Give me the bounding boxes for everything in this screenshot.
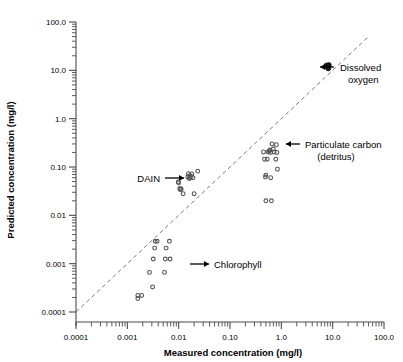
series-chlorophyll [136, 239, 172, 300]
annotation-label-particulate-carbon: Particulate carbon [305, 139, 382, 150]
arrow-head [204, 261, 209, 267]
data-point [270, 142, 274, 146]
data-point [148, 270, 152, 274]
annotation-label-dissolved-oxygen: Dissolved [340, 62, 381, 73]
data-point [196, 169, 200, 173]
x-tick-label: 10.0 [325, 333, 341, 342]
data-point [274, 143, 278, 147]
y-tick-label: 1.0 [55, 115, 67, 124]
data-point [265, 157, 269, 161]
series-dain [176, 169, 199, 195]
data-point [153, 246, 157, 250]
scatter-plot-figure: 0.00010.0010.010.101.010.0100.00.00010.0… [0, 0, 403, 362]
unity-reference-line [76, 37, 369, 312]
annotation-arrow-dain [165, 175, 184, 181]
x-tick-label: 0.10 [222, 333, 238, 342]
annotation-label-dain: DAIN [137, 173, 160, 184]
one-to-one-reference-line [76, 37, 369, 312]
plot-canvas: 0.00010.0010.010.101.010.0100.00.00010.0… [0, 0, 403, 362]
data-point [269, 199, 273, 203]
annotation-arrow-chlorophyll [190, 261, 209, 267]
data-point [274, 157, 278, 161]
annotation-label-chlorophyll: Chlorophyll [214, 259, 262, 270]
x-tick-label: 100.0 [374, 333, 395, 342]
data-point [168, 257, 172, 261]
x-tick-label: 0.001 [117, 333, 138, 342]
data-point [168, 239, 172, 243]
data-point [269, 176, 273, 180]
data-point [264, 199, 268, 203]
arrow-head [320, 64, 325, 70]
data-point [181, 192, 185, 196]
y-axis-title: Predicted concentration (mg/l) [5, 101, 16, 238]
data-point [151, 257, 155, 261]
y-tick-label: 100.0 [46, 18, 67, 27]
annotation-label-dissolved-oxygen-line2: oxygen [348, 74, 379, 85]
data-point [262, 150, 266, 154]
data-point [151, 285, 155, 289]
x-tick-label: 0.0001 [64, 333, 89, 342]
data-point [140, 294, 144, 298]
data-point [164, 246, 168, 250]
axis-titles-group: Measured concentration (mg/l) Predicted … [5, 101, 302, 358]
y-tick-label: 0.0001 [42, 308, 67, 317]
y-tick-label: 0.01 [50, 211, 66, 220]
x-tick-label: 1.0 [276, 333, 288, 342]
annotation-arrow-particulate-carbon [286, 141, 300, 147]
x-tick-label: 0.01 [171, 333, 187, 342]
axes-group [69, 22, 384, 329]
data-point [163, 270, 167, 274]
series-particulate-carbon-detritus [262, 142, 280, 203]
y-tick-label: 0.001 [46, 260, 67, 269]
arrow-head [179, 175, 184, 181]
arrow-head [286, 141, 291, 147]
annotation-label-particulate-carbon-line2: (detritus) [317, 151, 354, 162]
y-tick-label: 10.0 [50, 66, 66, 75]
data-point [192, 192, 196, 196]
x-axis-title: Measured concentration (mg/l) [164, 347, 302, 358]
annotations-group: DissolvedoxygenParticulate carbon(detrit… [137, 62, 381, 270]
data-point [276, 167, 280, 171]
data-point [163, 257, 167, 261]
y-tick-label: 0.10 [50, 163, 66, 172]
